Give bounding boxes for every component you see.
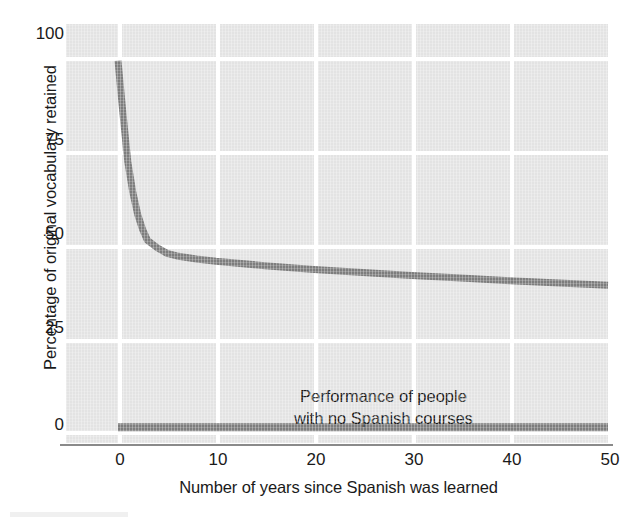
x-tick-label-40: 40 (487, 450, 537, 470)
y-tick-label-25: 25 (18, 318, 64, 338)
annotation-line-1: Performance of people (294, 385, 473, 407)
y-tick-label-100: 100 (18, 24, 64, 44)
annotation-line-2: with no Spanish courses (294, 407, 473, 429)
plot-area: Performance of people with no Spanish co… (66, 24, 611, 443)
x-axis-line (60, 444, 613, 446)
y-tick-label-0: 0 (18, 415, 64, 435)
chart-figure: Percentage of original vocabulary retain… (0, 0, 637, 524)
x-tick-label-30: 30 (389, 450, 439, 470)
data-curves (66, 24, 611, 443)
x-tick-label-0: 0 (95, 450, 145, 470)
y-axis-title: Percentage of original vocabulary retain… (41, 8, 60, 428)
x-axis-title: Number of years since Spanish was learne… (66, 478, 611, 497)
x-tick-label-20: 20 (291, 450, 341, 470)
y-tick-label-50: 50 (18, 224, 64, 244)
x-tick-label-50: 50 (585, 450, 635, 470)
x-tick-label-10: 10 (193, 450, 243, 470)
retention-curve (118, 61, 608, 285)
scan-edge-artifact (10, 512, 128, 517)
no-courses-annotation: Performance of people with no Spanish co… (294, 385, 473, 430)
y-tick-label-75: 75 (18, 130, 64, 150)
